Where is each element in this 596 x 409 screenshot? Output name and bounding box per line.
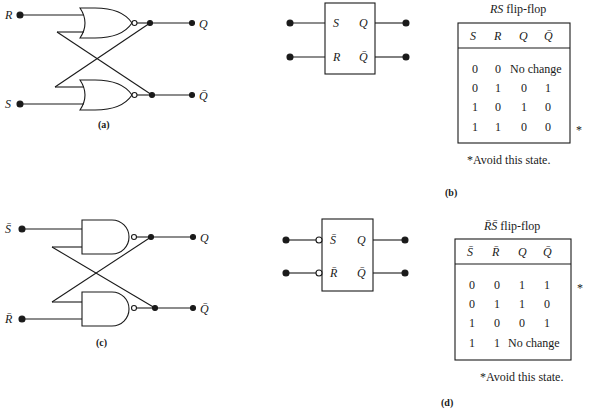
label-sbar: S̄ xyxy=(5,222,11,236)
output-terminal-q xyxy=(190,21,195,26)
caption-b: (b) xyxy=(445,187,457,199)
rs-avoid-marker: * xyxy=(576,123,582,137)
rs-row-2: 1 0 1 0 xyxy=(472,100,551,114)
block-label-rbar: R̄ xyxy=(329,266,338,280)
label-s: S xyxy=(5,97,11,111)
svg-text:1: 1 xyxy=(521,100,527,114)
svg-text:1: 1 xyxy=(544,316,550,330)
label-q: Q xyxy=(199,17,208,31)
block-label-r: R xyxy=(332,50,341,64)
inversion-bubble xyxy=(132,21,137,26)
rsbar-row-2: 1 0 0 1 xyxy=(469,316,550,330)
panel-a-nor-latch xyxy=(17,8,195,110)
svg-text:1: 1 xyxy=(545,81,551,95)
svg-text:1: 1 xyxy=(469,336,475,350)
rsbar-table-title: R̄S̄ flip-flop xyxy=(483,219,540,233)
rsbar-header-sbar: S̄ xyxy=(467,245,473,259)
rsbar-row-0: 0 0 1 1 xyxy=(469,278,550,292)
rsbar-row-3: 1 1 No change xyxy=(469,336,560,350)
svg-text:1: 1 xyxy=(495,81,501,95)
svg-text:0: 0 xyxy=(469,297,475,311)
nand-gate-top xyxy=(82,220,129,254)
flip-flop-figure: R S Q Q̄ (a) S R Q Q̄ RS flip-flop S R Q… xyxy=(0,0,596,409)
svg-text:0: 0 xyxy=(545,100,551,114)
block-label-q: Q xyxy=(359,16,368,30)
svg-text:0: 0 xyxy=(494,316,500,330)
rsbar-row-1: 0 1 1 0 xyxy=(469,297,550,311)
rsbar-footnote: *Avoid this state. xyxy=(480,370,563,384)
panel-c-nand-latch xyxy=(19,220,196,326)
svg-text:0: 0 xyxy=(495,62,501,76)
caption-d: (d) xyxy=(441,397,453,409)
block-label-sbar: S̄ xyxy=(330,233,336,247)
svg-text:1: 1 xyxy=(472,100,478,114)
nand-gate-bottom xyxy=(82,292,129,326)
svg-text:0: 0 xyxy=(545,120,551,134)
rsbar-header-qbar: Q̄ xyxy=(543,245,552,259)
svg-text:1: 1 xyxy=(494,336,500,350)
rs-row-3: 1 1 0 0 xyxy=(472,120,551,134)
caption-c: (c) xyxy=(96,337,107,349)
rsbar-block-symbol xyxy=(322,219,373,291)
svg-text:0: 0 xyxy=(472,62,478,76)
rs-header-s: S xyxy=(470,29,476,43)
panel-d-rsbar-block xyxy=(283,219,408,291)
rsbar-avoid-marker: * xyxy=(577,281,583,295)
svg-text:0: 0 xyxy=(494,278,500,292)
svg-text:1: 1 xyxy=(544,278,550,292)
rs-row-0: 0 0 No change xyxy=(472,62,562,76)
block-label-qbar-d: Q̄ xyxy=(357,266,366,280)
svg-text:0: 0 xyxy=(495,100,501,114)
panel-b-rs-block xyxy=(287,3,409,74)
svg-text:No change: No change xyxy=(508,336,560,350)
svg-text:0: 0 xyxy=(544,297,550,311)
block-label-qbar: Q̄ xyxy=(359,50,368,64)
rsbar-header-rbar: R̄ xyxy=(491,245,500,259)
svg-text:1: 1 xyxy=(469,316,475,330)
label-qbar-c: Q̄ xyxy=(200,302,209,316)
rsbar-header-q: Q xyxy=(518,245,527,259)
nor-gate-top xyxy=(80,8,132,38)
rs-header-r: R xyxy=(493,29,502,43)
rs-header-q: Q xyxy=(519,29,528,43)
svg-text:1: 1 xyxy=(494,297,500,311)
rs-table-title: RS flip-flop xyxy=(489,2,546,16)
caption-a: (a) xyxy=(98,119,110,131)
rs-header-qbar: Q̄ xyxy=(544,29,553,43)
svg-text:No change: No change xyxy=(510,62,562,76)
svg-text:1: 1 xyxy=(495,120,501,134)
svg-text:1: 1 xyxy=(472,120,478,134)
label-rbar: R̄ xyxy=(4,312,13,326)
svg-text:1: 1 xyxy=(519,278,525,292)
svg-text:1: 1 xyxy=(519,297,525,311)
output-terminal-qbar-c xyxy=(191,306,196,311)
output-terminal-q-c xyxy=(191,235,196,240)
rs-footnote: *Avoid this state. xyxy=(467,153,550,167)
svg-text:0: 0 xyxy=(521,120,527,134)
rs-row-1: 0 1 0 1 xyxy=(472,81,551,95)
svg-text:0: 0 xyxy=(469,278,475,292)
label-q-c: Q xyxy=(200,231,209,245)
block-label-s: S xyxy=(333,16,339,30)
label-qbar: Q̄ xyxy=(199,89,208,103)
block-label-q-d: Q xyxy=(357,233,366,247)
svg-text:0: 0 xyxy=(472,81,478,95)
output-terminal-qbar xyxy=(190,93,195,98)
svg-text:0: 0 xyxy=(521,81,527,95)
label-r: R xyxy=(4,8,13,22)
svg-text:0: 0 xyxy=(519,316,525,330)
nor-gate-bottom xyxy=(80,80,132,110)
